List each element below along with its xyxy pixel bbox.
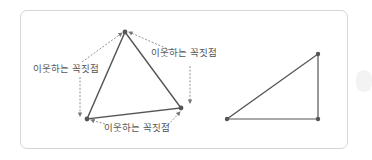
vertex-top	[316, 52, 320, 56]
vertex-top	[123, 30, 128, 35]
label-left: 이웃하는 꼭짓점	[33, 63, 99, 74]
triangle-with-neighbors	[85, 30, 184, 122]
vertex-left	[85, 117, 90, 122]
vertex-right	[179, 106, 184, 111]
label-bottom: 이웃하는 꼭짓점	[104, 122, 170, 133]
vertex-bottom-left	[225, 117, 229, 121]
right-triangle	[225, 52, 320, 121]
label-right: 이웃하는 꼭짓점	[151, 47, 217, 58]
vertex-bottom-right	[316, 117, 320, 121]
